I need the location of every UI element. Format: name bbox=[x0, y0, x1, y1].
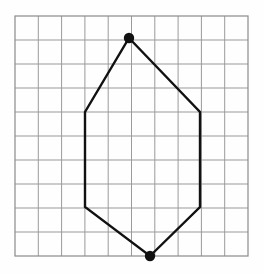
bottom-vertex-dot bbox=[145, 251, 155, 261]
geometry-figure bbox=[0, 0, 264, 274]
figure-canvas bbox=[0, 0, 264, 274]
top-vertex-dot bbox=[124, 33, 134, 43]
